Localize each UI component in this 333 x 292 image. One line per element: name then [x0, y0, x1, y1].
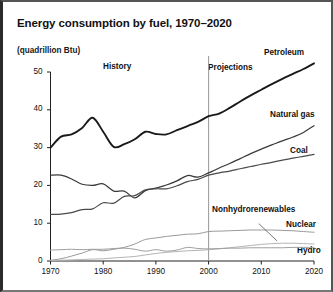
series-line-coal — [51, 154, 315, 214]
series-line-petroleum — [51, 63, 315, 147]
annotation-leader-line — [259, 224, 277, 241]
chart-figure: Energy consumption by fuel, 1970–2020 (q… — [0, 0, 333, 292]
series-line-nonhydrorenewables — [51, 243, 315, 260]
chart-inner: Energy consumption by fuel, 1970–2020 (q… — [3, 2, 331, 290]
series-line-nuclear — [51, 230, 315, 260]
chart-plot-area — [3, 2, 333, 292]
